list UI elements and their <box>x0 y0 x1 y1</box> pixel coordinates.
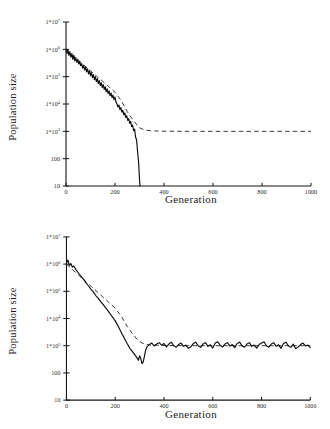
svg-text:1*106: 1*106 <box>46 260 61 267</box>
bottom-chart-panel: Population size 101001*1031*1041*1051*10… <box>0 214 330 429</box>
svg-text:100: 100 <box>51 370 60 376</box>
svg-text:1*104: 1*104 <box>46 314 61 321</box>
svg-text:1*103: 1*103 <box>45 127 60 134</box>
top-chart-plot: 101001*1031*1041*1051*1061*1070200400600… <box>0 0 330 214</box>
svg-text:1*107: 1*107 <box>45 18 60 25</box>
bottom-x-axis-title: Generation <box>66 408 316 420</box>
svg-text:10: 10 <box>54 397 60 403</box>
top-chart-panel: Population size 101001*1031*1041*1051*10… <box>0 0 330 214</box>
svg-text:1*105: 1*105 <box>46 287 61 294</box>
svg-text:1*107: 1*107 <box>46 233 61 240</box>
svg-text:10: 10 <box>54 182 60 189</box>
bottom-chart-plot: 101001*1031*1041*1051*1061*1070200400600… <box>0 214 330 428</box>
svg-text:1*103: 1*103 <box>46 342 61 349</box>
svg-text:1*105: 1*105 <box>45 72 60 79</box>
svg-text:1*104: 1*104 <box>45 100 60 107</box>
svg-text:100: 100 <box>51 155 60 162</box>
svg-text:1*106: 1*106 <box>45 45 60 52</box>
top-x-axis-title: Generation <box>66 193 316 205</box>
